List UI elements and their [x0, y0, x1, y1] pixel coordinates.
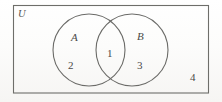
set-b-label: B: [137, 31, 144, 42]
universal-set-label: U: [18, 9, 26, 20]
venn-diagram-figure: U A B 2 1 3 4: [0, 0, 222, 102]
set-a-circle: [53, 14, 125, 86]
region-count-intersection: 1: [107, 48, 113, 59]
region-count-b-only: 3: [137, 60, 143, 71]
region-count-outside: 4: [190, 72, 196, 83]
region-count-a-only: 2: [68, 60, 74, 71]
set-a-label: A: [71, 32, 78, 43]
